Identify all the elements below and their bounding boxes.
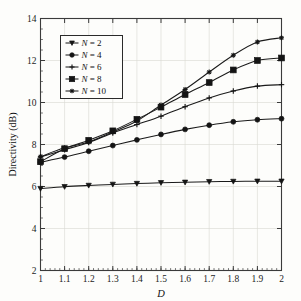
x-tick-label: 1.8 (227, 274, 239, 284)
marker-circle (255, 117, 260, 122)
marker-circle (110, 143, 115, 148)
marker-cross (158, 103, 163, 108)
y-tick-label: 2 (32, 266, 37, 276)
marker-square (230, 67, 236, 73)
marker-plus (182, 104, 188, 110)
legend-label: N = 10 (81, 86, 107, 96)
x-tick-label: 1.2 (83, 274, 95, 284)
y-tick-label: 6 (32, 182, 37, 192)
marker-circle (134, 137, 139, 142)
marker-square (255, 58, 261, 64)
marker-square (279, 55, 285, 61)
marker-plus (158, 113, 164, 119)
marker-circle (62, 155, 67, 160)
y-tick-label: 12 (27, 56, 37, 66)
marker-plus (231, 88, 237, 94)
marker-cross (62, 145, 67, 150)
marker-cross (207, 70, 212, 75)
x-tick-label: 1.3 (107, 274, 119, 284)
legend-label: N = 4 (81, 50, 103, 60)
marker-square (69, 76, 74, 81)
y-tick-label: 10 (27, 98, 37, 108)
x-tick-label: 2 (279, 274, 284, 284)
figure-container: 11.11.21.31.41.51.61.71.81.922468101214 … (0, 0, 301, 301)
marker-square (206, 80, 212, 86)
marker-square (182, 92, 188, 98)
marker-cross (183, 87, 188, 92)
x-tick-label: 1 (38, 274, 43, 284)
marker-cross (86, 139, 91, 144)
marker-circle (159, 132, 164, 137)
marker-circle (207, 123, 212, 128)
x-axis-title: D (156, 288, 165, 299)
y-tick-label: 8 (32, 140, 37, 150)
legend-label: N = 8 (81, 74, 103, 84)
chart-legend: N = 2N = 4N = 6N = 8N = 10 (61, 36, 123, 99)
marker-circle (70, 53, 75, 58)
x-tick-label: 1.9 (251, 274, 263, 284)
marker-cross (134, 118, 139, 123)
marker-plus (255, 83, 261, 89)
marker-cross (70, 89, 75, 94)
legend-label: N = 2 (81, 38, 102, 48)
marker-plus (206, 95, 212, 101)
marker-square (38, 159, 44, 165)
directivity-line-chart: 11.11.21.31.41.51.61.71.81.922468101214 … (0, 0, 301, 301)
legend-label: N = 6 (81, 62, 103, 72)
marker-cross (38, 154, 43, 159)
marker-circle (183, 127, 188, 132)
marker-circle (279, 116, 284, 121)
marker-plus (279, 82, 285, 88)
marker-circle (231, 119, 236, 124)
y-tick-label: 14 (27, 14, 37, 24)
marker-cross (255, 40, 260, 45)
y-tick-label: 4 (32, 224, 37, 234)
marker-cross (110, 129, 115, 134)
x-tick-label: 1.6 (179, 274, 191, 284)
y-axis-title: Directivity (dB) (7, 112, 19, 176)
x-tick-label: 1.7 (203, 274, 215, 284)
marker-cross (279, 35, 284, 40)
marker-cross (231, 53, 236, 58)
x-tick-label: 1.5 (155, 274, 167, 284)
x-tick-label: 1.1 (59, 274, 71, 284)
marker-circle (86, 149, 91, 154)
x-tick-label: 1.4 (131, 274, 143, 284)
